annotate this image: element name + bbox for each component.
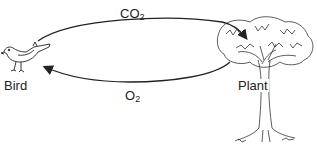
diagram-canvas: CO2 O2 Bird Plant bbox=[0, 0, 317, 153]
diagram-graphics bbox=[0, 0, 317, 153]
arrow-o2 bbox=[45, 62, 230, 82]
bird-icon bbox=[1, 42, 50, 72]
o2-label: O2 bbox=[125, 89, 140, 104]
bird-label: Bird bbox=[4, 79, 27, 92]
co2-label: CO2 bbox=[120, 7, 145, 22]
plant-label: Plant bbox=[237, 79, 269, 92]
